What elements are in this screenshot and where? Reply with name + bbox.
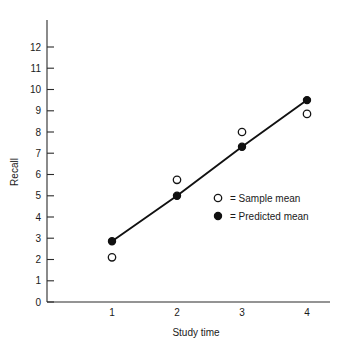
x-tick-label-3: 3 (239, 307, 245, 318)
y-tick-label-6: 6 (35, 169, 41, 180)
x-axis-tick-labels: 1 2 3 4 (109, 307, 310, 318)
y-tick-label-3: 3 (35, 233, 41, 244)
y-tick-label-8: 8 (35, 127, 41, 138)
predicted-mean-point-4 (303, 97, 310, 104)
x-tick-label-2: 2 (174, 307, 180, 318)
sample-mean-point-1 (108, 254, 115, 261)
sample-mean-point-2 (173, 176, 180, 183)
y-tick-label-0: 0 (35, 297, 41, 308)
y-tick-label-7: 7 (35, 148, 41, 159)
y-tick-label-10: 10 (30, 84, 42, 95)
legend-filled-circle-icon (214, 212, 221, 219)
y-tick-label-4: 4 (35, 212, 41, 223)
y-tick-label-1: 1 (35, 275, 41, 286)
recall-vs-study-time-chart: 0 1 2 3 4 5 6 7 8 9 10 11 12 1 2 3 4 Stu… (0, 0, 343, 353)
predicted-mean-point-2 (173, 192, 180, 199)
sample-mean-points (108, 110, 310, 261)
y-tick-label-9: 9 (35, 105, 41, 116)
legend-label-predicted-mean: = Predicted mean (230, 211, 309, 222)
predicted-mean-point-3 (238, 143, 245, 150)
y-axis-tick-labels: 0 1 2 3 4 5 6 7 8 9 10 11 12 (30, 42, 42, 308)
legend-entry-predicted-mean: = Predicted mean (214, 211, 308, 222)
y-tick-label-11: 11 (31, 63, 42, 74)
legend-open-circle-icon (214, 194, 221, 201)
chart-legend: = Sample mean = Predicted mean (214, 193, 308, 222)
chart-canvas: 0 1 2 3 4 5 6 7 8 9 10 11 12 1 2 3 4 Stu… (0, 0, 343, 353)
y-tick-label-5: 5 (35, 190, 41, 201)
y-tick-label-12: 12 (30, 42, 42, 53)
x-axis-title: Study time (172, 327, 220, 338)
axes-group (47, 20, 330, 302)
x-tick-label-1: 1 (109, 307, 115, 318)
legend-entry-sample-mean: = Sample mean (214, 193, 300, 204)
predicted-mean-point-1 (108, 238, 115, 245)
x-tick-label-4: 4 (304, 307, 310, 318)
y-axis-ticks (47, 47, 54, 302)
sample-mean-point-4 (303, 110, 310, 117)
sample-mean-point-3 (238, 128, 245, 135)
y-tick-label-2: 2 (35, 254, 41, 265)
legend-label-sample-mean: = Sample mean (230, 193, 300, 204)
y-axis-title: Recall (9, 158, 20, 186)
